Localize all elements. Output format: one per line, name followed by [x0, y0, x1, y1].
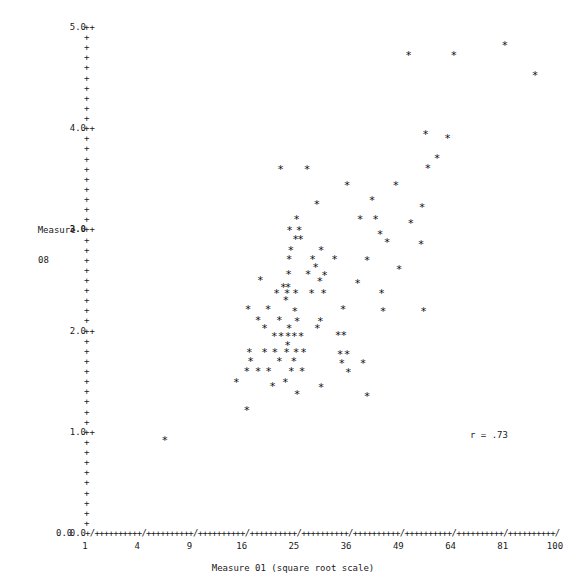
y-axis-tick-mark: + — [84, 275, 89, 285]
data-point — [271, 345, 278, 354]
y-axis-title-line2: 08 — [16, 253, 84, 268]
x-axis-tick-label: 64 — [445, 541, 456, 551]
y-axis-tick-mark: + — [84, 194, 89, 204]
y-axis-tick-mark: ++ — [84, 123, 95, 133]
data-point — [422, 127, 429, 136]
data-point — [265, 364, 272, 373]
y-axis-minor-tick: + — [0, 498, 120, 508]
y-axis-tick-mark: + — [84, 477, 89, 487]
x-axis-tick-label: 16 — [236, 541, 247, 551]
data-point — [255, 313, 262, 322]
data-point — [245, 302, 252, 311]
y-axis-minor-tick: + — [0, 113, 120, 123]
y-axis-tick-mark: + — [84, 174, 89, 184]
data-point — [313, 197, 320, 206]
data-point — [335, 328, 342, 337]
y-axis-minor-tick: + — [0, 356, 120, 366]
data-point — [273, 286, 280, 295]
y-axis-tick-mark: + — [84, 386, 89, 396]
y-axis-tick-mark: + — [84, 488, 89, 498]
y-axis-tick-mark: + — [84, 295, 89, 305]
data-point — [285, 329, 292, 338]
y-axis-tick-mark: + — [84, 508, 89, 518]
data-point — [288, 364, 295, 373]
data-point — [336, 347, 343, 356]
y-axis-minor-tick: + — [0, 42, 120, 52]
y-axis-minor-tick: + — [0, 103, 120, 113]
y-axis-minor-tick: + — [0, 305, 120, 315]
data-point — [284, 338, 291, 347]
y-axis-minor-tick: + — [0, 164, 120, 174]
data-point — [290, 354, 297, 363]
x-axis-tick-label: 49 — [393, 541, 404, 551]
y-axis-tick-mark: + — [84, 437, 89, 447]
data-point — [284, 286, 291, 295]
y-axis-minor-tick: + — [0, 508, 120, 518]
y-axis-minor-tick: + — [0, 467, 120, 477]
y-axis-minor-tick: + — [0, 407, 120, 417]
data-point — [392, 178, 399, 187]
y-axis-tick-mark: + — [84, 103, 89, 113]
y-axis-minor-tick: + — [0, 457, 120, 467]
y-axis-minor-tick: + — [0, 174, 120, 184]
data-point — [378, 286, 385, 295]
data-point — [364, 253, 371, 262]
y-axis-minor-tick: + — [0, 386, 120, 396]
y-axis-tick-mark: + — [84, 467, 89, 477]
y-axis-minor-tick: + — [0, 32, 120, 42]
y-axis-tick-mark: + — [84, 498, 89, 508]
data-point — [233, 375, 240, 384]
y-axis-minor-tick: + — [0, 143, 120, 153]
data-point — [321, 268, 328, 277]
y-axis-minor-tick: + — [0, 417, 120, 427]
data-point — [286, 223, 293, 232]
y-axis-minor-tick: + — [0, 346, 120, 356]
y-axis-tick-mark: + — [84, 336, 89, 346]
data-point — [360, 356, 367, 365]
data-point — [282, 375, 289, 384]
data-point — [246, 345, 253, 354]
y-axis-minor-tick: + — [0, 366, 120, 376]
y-axis-tick-mark: + — [84, 113, 89, 123]
data-point — [420, 304, 427, 313]
data-point — [257, 273, 264, 282]
data-point — [292, 345, 299, 354]
data-point — [304, 162, 311, 171]
y-axis-minor-tick: + — [0, 83, 120, 93]
correlation-annotation: r = .73 — [470, 430, 508, 440]
data-point — [283, 345, 290, 354]
data-point — [277, 162, 284, 171]
scatter-plot-figure: 0.0+++++++++1.0+++++++++++2.0+++++++++++… — [0, 0, 586, 578]
y-axis-tick-mark: + — [84, 245, 89, 255]
data-point — [383, 235, 390, 244]
data-point — [287, 243, 294, 252]
y-axis-tick-mark: + — [84, 52, 89, 62]
data-point — [280, 280, 287, 289]
data-point — [369, 193, 376, 202]
data-point — [317, 314, 324, 323]
data-point — [299, 364, 306, 373]
data-point — [261, 321, 268, 330]
y-axis-minor-tick: + — [0, 154, 120, 164]
data-point — [278, 329, 285, 338]
data-point — [309, 252, 316, 261]
data-point — [501, 38, 508, 47]
y-axis-minor-tick: + — [0, 194, 120, 204]
y-axis-tick-mark: + — [84, 356, 89, 366]
data-point — [161, 433, 168, 442]
y-axis-tick-mark: + — [84, 204, 89, 214]
data-point — [276, 354, 283, 363]
y-axis-major-tick: 1.0++ — [0, 427, 120, 437]
data-point — [291, 304, 298, 313]
x-axis-tick-label: 4 — [135, 541, 140, 551]
y-axis-minor-tick: + — [0, 315, 120, 325]
data-point — [433, 151, 440, 160]
y-axis-tick-mark: + — [84, 265, 89, 275]
y-axis-tick-mark: + — [84, 315, 89, 325]
data-point — [424, 161, 431, 170]
y-axis-tick-mark: + — [84, 133, 89, 143]
x-axis-tick-label: 1 — [82, 541, 87, 551]
data-point — [255, 364, 262, 373]
y-axis-tick-mark: ++ — [84, 326, 95, 336]
data-point — [314, 321, 321, 330]
